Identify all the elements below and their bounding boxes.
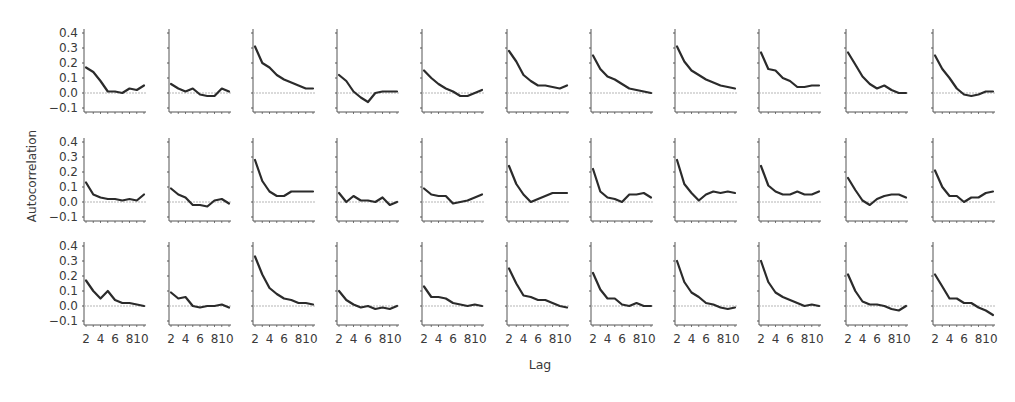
autocorrelation-panel	[673, 138, 737, 223]
y-tick-label: 0.0	[59, 195, 78, 209]
autocorrelation-series-line	[339, 193, 397, 205]
x-tick-label: 10	[724, 332, 739, 346]
x-tick-label: 6	[364, 332, 372, 346]
autocorrelation-series-line	[677, 261, 735, 309]
autocorrelation-panel: 246810	[335, 242, 402, 346]
autocorrelation-panel	[167, 29, 231, 114]
x-tick-label: 10	[218, 332, 233, 346]
x-tick-label: 6	[111, 332, 119, 346]
autocorrelation-panel: 246810	[167, 242, 234, 346]
autocorrelation-series-line	[593, 273, 651, 306]
x-tick-label: 6	[618, 332, 626, 346]
autocorrelation-series-line	[86, 281, 144, 307]
x-tick-label: 2	[844, 332, 852, 346]
x-tick-label: 4	[435, 332, 443, 346]
autocorrelation-panel: 0.40.30.20.10.0−0.1	[49, 26, 146, 115]
autocorrelation-panel	[589, 29, 653, 114]
x-axis-label: Lag	[529, 357, 552, 372]
x-tick-label: 4	[182, 332, 190, 346]
autocorrelation-series-line	[171, 189, 229, 207]
x-tick-label: 8	[717, 332, 725, 346]
autocorrelation-series-line	[424, 189, 482, 204]
autocorrelation-series-line	[86, 183, 144, 201]
x-tick-label: 6	[873, 332, 881, 346]
x-tick-label: 2	[251, 332, 259, 346]
y-tick-label: 0.0	[59, 86, 78, 100]
y-tick-label: 0.2	[59, 269, 78, 283]
x-tick-label: 2	[335, 332, 343, 346]
x-tick-label: 4	[266, 332, 274, 346]
y-axis-label: Autocorrelation	[25, 130, 39, 222]
y-tick-label: 0.3	[59, 254, 78, 268]
y-tick-label: −0.1	[49, 314, 78, 328]
x-tick-label: 4	[772, 332, 780, 346]
autocorrelation-series-line	[848, 178, 906, 205]
x-tick-label: 8	[211, 332, 219, 346]
x-tick-label: 4	[688, 332, 696, 346]
x-tick-label: 10	[808, 332, 823, 346]
x-tick-label: 6	[280, 332, 288, 346]
y-tick-label: −0.1	[49, 101, 78, 115]
autocorrelation-panel	[420, 29, 484, 114]
x-tick-label: 8	[801, 332, 809, 346]
autocorrelation-panel	[589, 138, 653, 223]
x-tick-label: 8	[633, 332, 641, 346]
x-tick-label: 4	[604, 332, 612, 346]
x-tick-label: 8	[975, 332, 983, 346]
x-tick-label: 4	[350, 332, 358, 346]
x-tick-label: 4	[859, 332, 867, 346]
x-tick-label: 4	[520, 332, 528, 346]
autocorrelation-panel	[931, 29, 995, 114]
autocorrelation-series-line	[86, 68, 144, 94]
x-tick-label: 4	[97, 332, 105, 346]
autocorrelation-panel	[844, 29, 908, 114]
autocorrelation-series-line	[848, 275, 906, 311]
y-tick-label: 0.4	[59, 135, 78, 149]
autocorrelation-panel: 246810	[673, 242, 740, 346]
x-tick-label: 6	[960, 332, 968, 346]
y-tick-label: 0.0	[59, 299, 78, 313]
x-tick-label: 8	[549, 332, 557, 346]
autocorrelation-panel: 246810	[251, 242, 318, 346]
autocorrelation-series-line	[339, 75, 397, 102]
y-tick-label: −0.1	[49, 210, 78, 224]
autocorrelation-series-line	[509, 51, 567, 89]
y-tick-label: 0.3	[59, 41, 78, 55]
x-tick-label: 4	[946, 332, 954, 346]
autocorrelation-panel: 246810	[420, 242, 487, 346]
autocorrelation-series-line	[935, 171, 993, 203]
autocorrelation-series-line	[593, 169, 651, 202]
x-tick-label: 6	[196, 332, 204, 346]
x-tick-label: 6	[702, 332, 710, 346]
autocorrelation-series-line	[255, 47, 313, 89]
autocorrelation-series-line	[935, 56, 993, 97]
x-tick-label: 8	[888, 332, 896, 346]
autocorrelation-series-line	[935, 275, 993, 316]
autocorrelation-series-line	[171, 84, 229, 96]
panel-grid: 0.40.30.20.10.0−0.10.40.30.20.10.0−0.10.…	[49, 26, 998, 346]
autocorrelation-series-line	[509, 269, 567, 308]
autocorrelation-panel	[844, 138, 908, 223]
autocorrelation-panel	[505, 138, 569, 223]
x-tick-label: 2	[167, 332, 175, 346]
x-tick-label: 8	[379, 332, 387, 346]
y-tick-label: 0.4	[59, 239, 78, 253]
x-tick-label: 10	[640, 332, 655, 346]
autocorrelation-series-line	[593, 56, 651, 94]
y-tick-label: 0.1	[59, 71, 78, 85]
autocorrelation-panel: 246810	[757, 242, 824, 346]
autocorrelation-panel: 0.40.30.20.10.0−0.1	[49, 135, 146, 224]
autocorrelation-series-line	[677, 47, 735, 89]
x-tick-label: 10	[386, 332, 401, 346]
autocorrelation-series-line	[171, 293, 229, 308]
autocorrelation-panel: 246810	[505, 242, 572, 346]
autocorrelation-series-line	[761, 261, 819, 306]
x-tick-label: 8	[295, 332, 303, 346]
x-tick-label: 2	[420, 332, 428, 346]
autocorrelation-panel	[167, 138, 231, 223]
autocorrelation-panel	[335, 138, 399, 223]
autocorrelation-panel: 0.40.30.20.10.0−0.1246810	[49, 239, 149, 346]
x-tick-label: 2	[505, 332, 513, 346]
x-tick-label: 10	[556, 332, 571, 346]
y-tick-label: 0.3	[59, 150, 78, 164]
